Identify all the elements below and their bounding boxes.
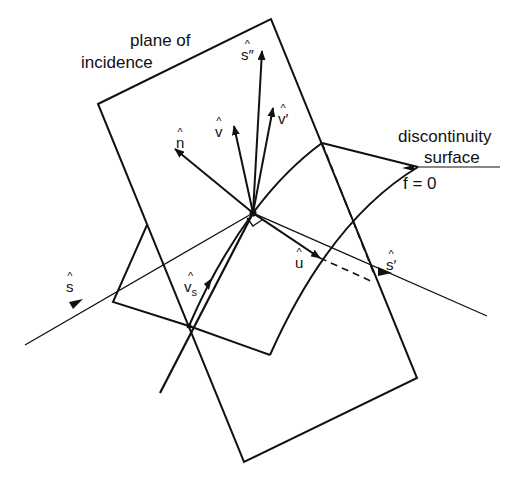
surface-label-line1: discontinuity (398, 128, 492, 145)
refracted-ray (253, 213, 487, 316)
v-s-hat-label: ^vs (184, 272, 197, 298)
u-vector (253, 213, 320, 258)
incidence-point (250, 210, 257, 217)
plane-label-line2: incidence (81, 54, 153, 71)
plane-of-incidence (98, 19, 417, 462)
ray-diagram (0, 0, 529, 477)
plane-label-line1: plane of (130, 32, 191, 49)
lower-corner-point (187, 324, 192, 329)
s-double-prime-hat-label: ^s″ (241, 40, 254, 62)
hidden-u-extension (320, 258, 373, 282)
discontinuity-surface (113, 143, 418, 355)
u-hat-label: ^u (295, 248, 303, 270)
v-prime-hat-label: ^v′ (278, 104, 288, 126)
surface-label-line2: surface (424, 149, 480, 166)
v-hat-label: ^v (215, 117, 223, 139)
equation-label: f = 0 (403, 175, 437, 192)
n-hat-label: ^n (176, 128, 184, 150)
s-hat-label: ^s (66, 272, 74, 294)
s-prime-hat-label: ^s′ (386, 250, 396, 272)
